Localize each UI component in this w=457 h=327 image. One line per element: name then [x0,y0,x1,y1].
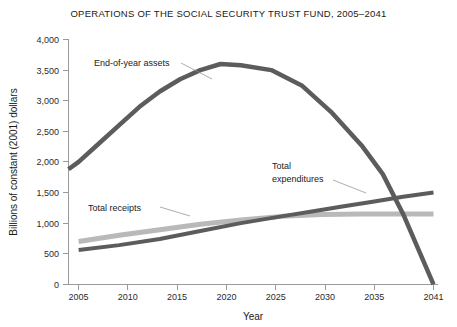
x-tick-label: 2041 [423,292,443,302]
series-label-total-expenditures-line1: Total [272,161,291,171]
series-line-total-expenditures [79,193,434,251]
x-tick-label: 2020 [216,292,236,302]
x-tick-label: 2030 [315,292,335,302]
series-label-total-receipts: Total receipts [88,203,142,213]
y-tick-label: 2,500 [36,127,59,137]
series-label-total-expenditures-line2: expenditures [272,174,324,184]
x-axis-ticks [79,285,434,291]
y-tick-label: 4,000 [36,35,59,45]
series-line-total-receipts [79,214,434,242]
x-tick-label: 2010 [118,292,138,302]
y-tick-label: 0 [54,280,59,290]
x-axis-tick-labels: 2005 2010 2015 2020 2025 2030 2035 2041 [68,292,443,302]
series-label-end-of-year-assets: End-of-year assets [94,58,170,68]
x-tick-label: 2015 [167,292,187,302]
chart-figure: OPERATIONS OF THE SOCIAL SECURITY TRUST … [0,0,457,327]
y-tick-label: 3,000 [36,96,59,106]
line-chart-plot: 4,000 3,500 3,000 2,500 2,000 1,500 1,00… [0,0,457,327]
y-axis-tick-labels: 4,000 3,500 3,000 2,500 2,000 1,500 1,00… [36,35,59,290]
x-tick-label: 2025 [266,292,286,302]
x-axis-title: Year [243,311,264,322]
y-tick-label: 500 [44,249,59,259]
y-axis-title: Billions of constant (2001) dollars [8,88,19,235]
series-line-end-of-year-assets [69,64,434,284]
leader-line-receipts [160,207,190,216]
y-tick-label: 1,000 [36,219,59,229]
y-tick-label: 2,000 [36,157,59,167]
x-tick-label: 2035 [364,292,384,302]
leader-line-expenditures [333,180,366,193]
y-axis-ticks [63,40,69,285]
x-tick-label: 2005 [68,292,88,302]
y-tick-label: 1,500 [36,188,59,198]
y-tick-label: 3,500 [36,66,59,76]
